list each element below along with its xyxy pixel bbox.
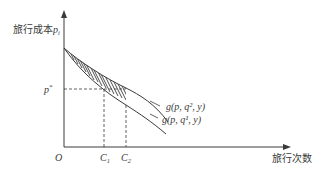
y-axis-label: 旅行成本pi bbox=[13, 23, 60, 36]
demand-curve-diagram: 旅行成本pi p* O C1 C2 旅行次数 g(p, q², y) g(p, … bbox=[0, 0, 322, 174]
curve-lower-label: g(p, q¹, y) bbox=[162, 114, 202, 126]
x-axis-arrow-icon bbox=[283, 144, 291, 150]
origin-label: O bbox=[55, 152, 62, 163]
upper-label-leader bbox=[150, 101, 160, 106]
price-label: p* bbox=[43, 83, 53, 95]
y-axis-arrow-icon bbox=[61, 10, 67, 18]
lower-label-leader bbox=[150, 114, 158, 118]
c2-label: C2 bbox=[121, 152, 132, 164]
x-axis-label: 旅行次数 bbox=[272, 152, 312, 164]
c1-label: C1 bbox=[100, 152, 110, 164]
curve-upper-label: g(p, q², y) bbox=[166, 101, 206, 113]
